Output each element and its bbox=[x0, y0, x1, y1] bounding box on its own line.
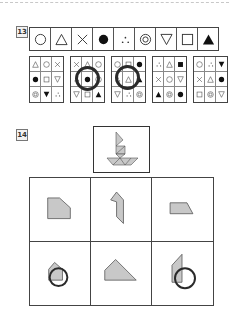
answer-options-13 bbox=[29, 56, 228, 103]
circle-icon bbox=[166, 76, 173, 83]
tangram-sailboat-icon bbox=[94, 127, 149, 172]
three-dots-icon bbox=[73, 76, 80, 83]
symbol-filled-circle-icon bbox=[93, 28, 114, 50]
answer-option-3[interactable] bbox=[152, 178, 213, 242]
option-5[interactable] bbox=[193, 56, 228, 103]
filled-triangle-icon bbox=[95, 91, 102, 98]
pentagon-cut-corner-icon bbox=[30, 178, 90, 241]
target-figure-sailboat bbox=[93, 126, 150, 173]
symbol-circle-icon bbox=[30, 28, 51, 50]
filled-down-triangle-icon bbox=[43, 91, 50, 98]
filled-circle-icon bbox=[218, 76, 225, 83]
filled-triangle-icon bbox=[136, 76, 143, 83]
square-icon bbox=[196, 91, 203, 98]
symbol-triangle-icon bbox=[51, 28, 72, 50]
circle-icon bbox=[95, 61, 102, 68]
double-circle-icon bbox=[32, 91, 39, 98]
circle-icon bbox=[114, 61, 121, 68]
bent-parallelogram-icon bbox=[91, 178, 151, 241]
option-3[interactable] bbox=[111, 56, 146, 103]
symbol-square-icon bbox=[177, 28, 198, 50]
answer-grid-14 bbox=[29, 177, 214, 306]
square-icon bbox=[84, 91, 91, 98]
answer-option-5[interactable] bbox=[91, 242, 152, 306]
option-4[interactable] bbox=[152, 56, 187, 103]
square-icon bbox=[125, 61, 132, 68]
three-dots-icon bbox=[207, 61, 214, 68]
double-circle-icon bbox=[166, 91, 173, 98]
option-1[interactable] bbox=[29, 56, 64, 103]
down-triangle-icon bbox=[54, 76, 61, 83]
answer-option-1[interactable] bbox=[30, 178, 91, 242]
symbol-filled-triangle-icon bbox=[198, 28, 218, 50]
answer-option-2[interactable] bbox=[91, 178, 152, 242]
down-triangle-icon bbox=[177, 76, 184, 83]
circle-icon bbox=[196, 61, 203, 68]
circle-icon bbox=[95, 76, 102, 83]
triangle-icon bbox=[84, 61, 91, 68]
filled-square-icon bbox=[177, 61, 184, 68]
right-trapezoid-triangle-icon bbox=[91, 242, 151, 306]
filled-circle-icon bbox=[84, 76, 91, 83]
filled-circle-icon bbox=[177, 91, 184, 98]
filled-circle-icon bbox=[32, 76, 39, 83]
three-dots-icon bbox=[114, 76, 121, 83]
filled-circle-icon bbox=[136, 61, 143, 68]
page-top-divider bbox=[0, 2, 229, 3]
symbol-reference-strip bbox=[29, 27, 219, 51]
question-number-14: 14 bbox=[16, 129, 28, 141]
down-triangle-icon bbox=[114, 91, 121, 98]
three-dots-icon bbox=[125, 91, 132, 98]
three-dots-icon bbox=[155, 61, 162, 68]
filled-triangle-icon bbox=[155, 91, 162, 98]
house-pentagon-icon bbox=[30, 242, 90, 306]
answer-option-4[interactable] bbox=[30, 242, 91, 306]
cross-icon bbox=[155, 76, 162, 83]
triangle-icon bbox=[32, 61, 39, 68]
down-triangle-icon bbox=[218, 91, 225, 98]
triangle-icon bbox=[125, 76, 132, 83]
cross-icon bbox=[54, 61, 61, 68]
answer-option-6[interactable] bbox=[152, 242, 213, 306]
three-dots-icon bbox=[54, 91, 61, 98]
symbol-cross-icon bbox=[72, 28, 93, 50]
double-circle-icon bbox=[207, 91, 214, 98]
symbol-three-dots-icon bbox=[114, 28, 135, 50]
tall-notched-quad-icon bbox=[152, 242, 213, 306]
cross-icon bbox=[73, 61, 80, 68]
trapezoid-icon bbox=[152, 178, 213, 241]
double-circle-icon bbox=[136, 91, 143, 98]
triangle-icon bbox=[207, 76, 214, 83]
symbol-double-circle-icon bbox=[135, 28, 156, 50]
filled-down-triangle-icon bbox=[218, 61, 225, 68]
option-2[interactable] bbox=[70, 56, 105, 103]
symbol-down-triangle-icon bbox=[156, 28, 177, 50]
cross-icon bbox=[196, 76, 203, 83]
question-number-13: 13 bbox=[16, 26, 28, 38]
down-triangle-icon bbox=[73, 91, 80, 98]
circle-icon bbox=[43, 61, 50, 68]
square-icon bbox=[43, 76, 50, 83]
triangle-icon bbox=[166, 61, 173, 68]
